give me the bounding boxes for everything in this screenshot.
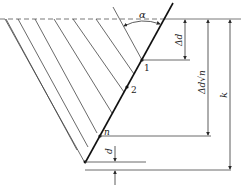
delta-d-sqrt-n-label: Δd√n bbox=[197, 70, 207, 95]
angle-reference-line bbox=[113, 7, 142, 60]
hatch-lines bbox=[5, 19, 134, 163]
point-n-label: n bbox=[104, 127, 110, 137]
angle-arc bbox=[124, 21, 160, 26]
point-1-label: 1 bbox=[144, 63, 150, 73]
d-label: d bbox=[104, 148, 114, 154]
point-2-marker bbox=[125, 85, 128, 88]
delta-d-label: Δd bbox=[174, 34, 184, 47]
point-2-label: 2 bbox=[131, 85, 137, 95]
k-label: k bbox=[218, 92, 229, 98]
main-flank-line bbox=[85, 3, 173, 163]
cutting-depth-diagram: α 1 2 n Δd Δd√n k d bbox=[0, 0, 241, 191]
angle-label: α bbox=[139, 9, 146, 20]
